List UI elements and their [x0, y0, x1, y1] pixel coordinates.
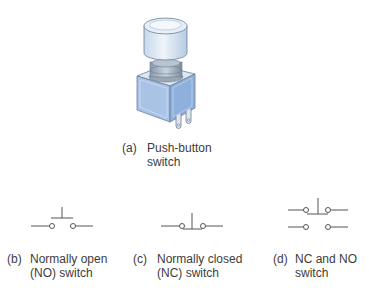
caption-c-label: (c)	[133, 252, 147, 266]
caption-d-line-1: NC and NO	[295, 252, 357, 266]
caption-d-label: (d)	[273, 252, 288, 266]
caption-c-line-2: (NC) switch	[157, 266, 242, 280]
caption-a-line-2: switch	[147, 155, 212, 169]
caption-a-line-1: Push-button	[147, 141, 212, 155]
caption-b-line-1: Normally open	[30, 252, 107, 266]
caption-b-label: (b)	[7, 252, 22, 266]
caption-b-line-2: (NO) switch	[30, 266, 107, 280]
caption-d-line-2: switch	[295, 266, 357, 280]
caption-c-line-1: Normally closed	[157, 252, 242, 266]
caption-a-label: (a)	[122, 141, 137, 155]
